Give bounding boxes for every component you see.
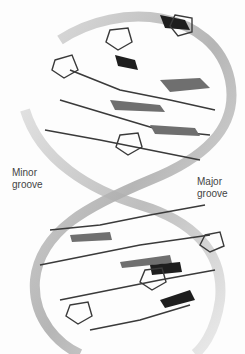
minor-groove-label-line2: groove: [12, 179, 43, 191]
major-groove-label-line1: Major: [197, 176, 228, 188]
minor-groove-label-line1: Minor: [12, 167, 43, 179]
dna-helix-figure: Minor groove Major groove: [0, 0, 245, 354]
sugar-rings: [52, 15, 224, 324]
base-plates: [70, 78, 210, 268]
major-groove-label: Major groove: [197, 176, 228, 200]
major-groove-label-line2: groove: [197, 188, 228, 200]
minor-groove-label: Minor groove: [12, 167, 43, 191]
